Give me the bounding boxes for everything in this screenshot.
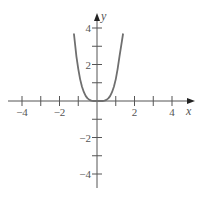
y-axis-arrow-icon	[94, 13, 100, 21]
y-tick-label: −4	[79, 168, 91, 180]
x-tick-label: 4	[169, 106, 175, 118]
x-tick-label: 2	[132, 106, 138, 118]
curve-line	[74, 34, 123, 102]
x-axis-label: x	[185, 104, 192, 118]
x-tick-label: −2	[54, 106, 66, 118]
y-tick-label: 2	[86, 59, 92, 71]
y-tick-label: −2	[79, 132, 91, 144]
function-graph: −4−22442−2−4 x y	[0, 0, 203, 201]
y-axis-label: y	[100, 9, 107, 23]
x-tick-label: −4	[16, 106, 28, 118]
y-tick-label: 4	[86, 22, 92, 34]
curve-series	[74, 34, 123, 102]
